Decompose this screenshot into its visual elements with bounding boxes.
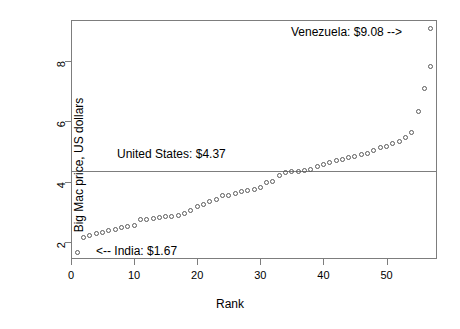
x-axis-tick-label: 30 (254, 270, 266, 281)
x-axis-tick-label: 20 (191, 270, 203, 281)
x-axis-tick (134, 259, 135, 265)
y-axis-tick-label: 2 (56, 242, 67, 248)
x-axis-tick-label: 50 (380, 270, 392, 281)
y-axis-title: Big Mac price, US dollars (72, 97, 86, 232)
annotation-india: <-- India: $1.67 (96, 245, 177, 257)
y-axis-tick-label: 8 (56, 61, 67, 67)
x-axis-tick (71, 259, 72, 265)
x-axis-tick-label: 40 (317, 270, 329, 281)
y-axis-tick-label: 6 (56, 121, 67, 127)
annotation-united-states: United States: $4.37 (117, 148, 226, 160)
x-axis-tick-label: 0 (68, 270, 74, 281)
x-axis-title: Rank (0, 297, 460, 311)
x-axis-tick (260, 259, 261, 265)
x-axis-tick-label: 10 (128, 270, 140, 281)
annotation-venezuela: Venezuela: $9.08 --> (291, 26, 402, 38)
y-axis-tick-label: 4 (56, 182, 67, 188)
x-axis-tick (387, 259, 388, 265)
chart-canvas: 010203040502468 Venezuela: $9.08 --> Uni… (0, 0, 460, 329)
plot-frame (71, 20, 437, 259)
x-axis-tick (323, 259, 324, 265)
x-axis-tick (197, 259, 198, 265)
reference-line-united-states (71, 171, 437, 172)
